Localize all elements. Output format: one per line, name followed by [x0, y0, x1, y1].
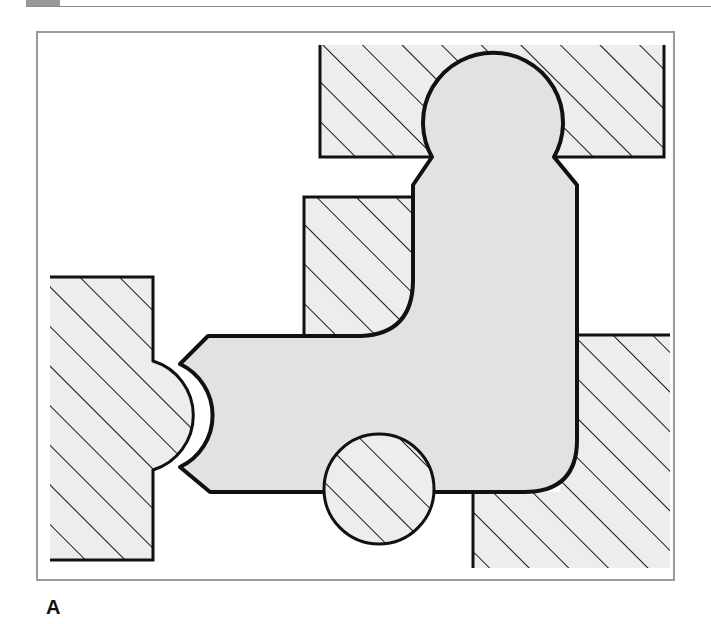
figure-label: A — [46, 596, 60, 619]
mechanical-section-diagram — [0, 0, 711, 624]
left-hatched-block — [50, 277, 193, 560]
middle-hatched-block — [304, 197, 413, 336]
round-pin — [324, 434, 434, 544]
